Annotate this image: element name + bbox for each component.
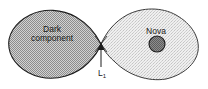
dark-component-label: Dark component bbox=[14, 25, 90, 43]
lagrange-point-index: 1 bbox=[103, 73, 106, 79]
nova-core-circle bbox=[149, 36, 165, 52]
dark-component-label-line2: component bbox=[14, 34, 90, 43]
nova-label: Nova bbox=[128, 27, 184, 36]
lagrange-point-letter: L bbox=[98, 68, 103, 78]
lagrange-point-label: L1 bbox=[88, 69, 116, 78]
roche-lobe-diagram: Dark component Nova L1 bbox=[0, 0, 208, 89]
